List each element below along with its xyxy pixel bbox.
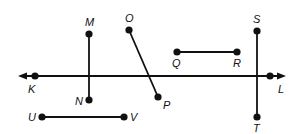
segment-op — [129, 30, 158, 97]
label-t: T — [253, 122, 261, 134]
label-o: O — [125, 12, 134, 24]
label-l: L — [278, 83, 284, 95]
arrow-right-icon — [277, 73, 286, 80]
point-n — [85, 96, 92, 103]
label-v: V — [130, 111, 139, 123]
point-o — [125, 26, 132, 33]
label-q: Q — [172, 57, 181, 69]
label-p: P — [163, 99, 171, 111]
point-t — [253, 113, 260, 120]
arrow-left-icon — [18, 73, 27, 80]
label-r: R — [233, 57, 241, 69]
point-q — [173, 48, 180, 55]
point-r — [233, 48, 240, 55]
label-n: N — [75, 95, 83, 107]
diagram-svg: KLMNOPQRSTUV — [0, 0, 298, 134]
point-p — [154, 93, 161, 100]
label-s: S — [253, 13, 261, 25]
point-m — [85, 30, 92, 37]
point-v — [120, 113, 127, 120]
point-l — [266, 72, 273, 79]
geometry-diagram: KLMNOPQRSTUV — [0, 0, 298, 134]
label-k: K — [28, 83, 36, 95]
label-m: M — [85, 16, 95, 28]
label-u: U — [28, 111, 36, 123]
point-s — [253, 27, 260, 34]
point-u — [38, 113, 45, 120]
point-k — [31, 72, 38, 79]
